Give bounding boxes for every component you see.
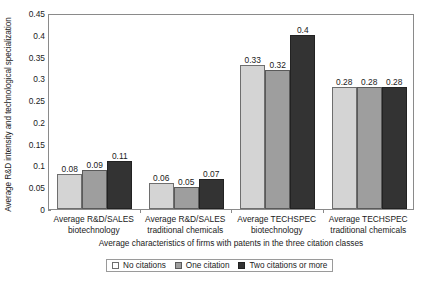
x-axis-category-line: traditional chemicals [323, 225, 415, 236]
bar-group: 0.060.050.07 [141, 15, 233, 209]
bar-value-label: 0.33 [245, 56, 261, 65]
y-axis-tick-label: 0.3 [5, 75, 45, 83]
bar[interactable]: 0.06 [149, 183, 174, 209]
bar-group: 0.280.280.28 [324, 15, 416, 209]
x-axis-tick-mark [231, 210, 232, 213]
legend-item[interactable]: One citation [175, 261, 230, 270]
bar-value-label: 0.05 [178, 178, 194, 187]
y-axis-tick-label: 0 [5, 206, 45, 214]
y-axis-tick-label: 0.15 [5, 141, 45, 149]
y-axis-tick-labels: 00.050.10.150.20.250.30.350.40.45 [3, 14, 45, 210]
bar-group: 0.080.090.11 [49, 15, 141, 209]
x-axis-title: Average characteristics of firms with pa… [48, 238, 414, 248]
x-axis-category-label: Average TECHSPECtraditional chemicals [323, 214, 415, 235]
bar[interactable]: 0.08 [57, 174, 82, 209]
bar-value-label: 0.07 [203, 170, 219, 179]
bar[interactable]: 0.07 [199, 179, 224, 209]
x-axis-category-line: biotechnology [48, 225, 140, 236]
x-axis-category-line: Average TECHSPEC [323, 214, 415, 225]
legend-label: One citation [186, 261, 230, 270]
y-axis-tick-label: 0.35 [5, 54, 45, 62]
x-axis-tick-mark [140, 210, 141, 213]
bar[interactable]: 0.4 [290, 35, 315, 209]
x-axis-category-line: Average TECHSPEC [231, 214, 323, 225]
bar[interactable]: 0.11 [107, 161, 132, 209]
x-axis-category-label: Average R&D/SALESbiotechnology [48, 214, 140, 235]
bar[interactable]: 0.28 [357, 87, 382, 209]
bar-group: 0.330.320.4 [232, 15, 324, 209]
bar-value-label: 0.32 [270, 61, 286, 70]
bar-value-label: 0.09 [87, 161, 103, 170]
y-axis-tick-label: 0.05 [5, 184, 45, 192]
x-axis-category-line: traditional chemicals [140, 225, 232, 236]
legend-item[interactable]: Two citations or more [238, 261, 327, 270]
chart-figure: Average R&D intensity and technological … [0, 0, 422, 283]
plot-area: 0.080.090.110.060.050.070.330.320.40.280… [48, 14, 414, 210]
legend-item[interactable]: No citations [112, 261, 166, 270]
bar[interactable]: 0.05 [174, 187, 199, 209]
bar-value-label: 0.06 [153, 174, 169, 183]
y-axis-tick-label: 0.2 [5, 119, 45, 127]
x-axis-category-label: Average R&D/SALEStraditional chemicals [140, 214, 232, 235]
chart-legend: No citationsOne citationTwo citations or… [106, 259, 333, 272]
x-axis-category-line: Average R&D/SALES [140, 214, 232, 225]
legend-swatch-icon [238, 262, 245, 269]
x-axis-category-label: Average TECHSPECbiotechnology [231, 214, 323, 235]
bar-value-label: 0.28 [336, 78, 352, 87]
y-axis-tick-label: 0.1 [5, 162, 45, 170]
bar-value-label: 0.4 [297, 26, 309, 35]
bar[interactable]: 0.32 [265, 70, 290, 209]
x-axis-tick-mark [323, 210, 324, 213]
bar-value-label: 0.28 [386, 78, 402, 87]
x-axis-category-labels: Average R&D/SALESbiotechnologyAverage R&… [48, 214, 414, 238]
legend-label: No citations [123, 261, 166, 270]
x-axis-category-line: Average R&D/SALES [48, 214, 140, 225]
bar[interactable]: 0.33 [240, 65, 265, 209]
y-axis-tick-label: 0.45 [5, 10, 45, 18]
bar[interactable]: 0.28 [382, 87, 407, 209]
y-axis-tick-label: 0.4 [5, 32, 45, 40]
x-axis-category-line: biotechnology [231, 225, 323, 236]
bar[interactable]: 0.09 [82, 170, 107, 209]
bar-value-label: 0.28 [361, 78, 377, 87]
bars-container: 0.080.090.110.060.050.070.330.320.40.280… [49, 15, 413, 209]
bar-value-label: 0.11 [112, 152, 128, 161]
bar[interactable]: 0.28 [332, 87, 357, 209]
legend-label: Two citations or more [249, 261, 327, 270]
y-axis-tick-label: 0.25 [5, 97, 45, 105]
legend-swatch-icon [112, 262, 119, 269]
legend-swatch-icon [175, 262, 182, 269]
bar-value-label: 0.08 [62, 165, 78, 174]
